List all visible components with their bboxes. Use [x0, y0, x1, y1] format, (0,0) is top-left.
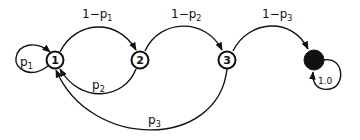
- edge-3-to-1: p3: [56, 69, 227, 130]
- node-2-label: 2: [136, 54, 144, 67]
- edge-2-to-3: 1−p2: [145, 7, 222, 51]
- edge-label-p2: p2: [92, 78, 105, 94]
- edge-label-p3: p3: [148, 113, 161, 129]
- edge-1-to-1: p1: [16, 45, 50, 72]
- node-1: 1: [47, 52, 64, 69]
- edge-label-1-0: 1.0: [318, 76, 333, 86]
- edge-label-1-minus-p1: 1−p1: [82, 7, 112, 23]
- edge-label-1-minus-p2: 1−p2: [171, 7, 201, 23]
- node-1-label: 1: [51, 54, 59, 67]
- edge-label-p1: p1: [20, 55, 33, 71]
- edge-3-to-absorbing: 1−p3: [233, 7, 308, 51]
- edge-label-1-minus-p3: 1−p3: [262, 7, 292, 23]
- node-3: 3: [219, 52, 236, 69]
- edge-2-to-1: p2: [60, 69, 136, 94]
- node-2: 2: [132, 52, 149, 69]
- node-3-label: 3: [223, 54, 231, 67]
- markov-chain-diagram: p1 1−p1 p2 1−p2 1−p3 p3 1.0 1 2: [0, 0, 360, 140]
- node-absorbing: [304, 50, 324, 70]
- edge-1-to-2: 1−p1: [60, 7, 136, 52]
